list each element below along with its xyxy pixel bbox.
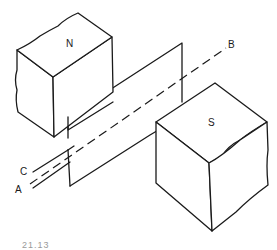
axis-label-a: A bbox=[15, 184, 22, 195]
south-magnet-block: S bbox=[156, 83, 268, 231]
axis-label-b: B bbox=[228, 39, 235, 50]
lead-wire-c-join bbox=[68, 146, 74, 150]
coil-left-edge bbox=[68, 150, 70, 186]
lead-wire-c bbox=[33, 150, 68, 172]
north-pole-label: N bbox=[66, 38, 73, 49]
wire-label-c: C bbox=[20, 166, 27, 177]
south-pole-label: S bbox=[208, 117, 215, 128]
north-magnet-block: N bbox=[16, 13, 114, 137]
figure-caption: 21.13 bbox=[22, 240, 50, 250]
lead-wire-a bbox=[33, 162, 70, 188]
